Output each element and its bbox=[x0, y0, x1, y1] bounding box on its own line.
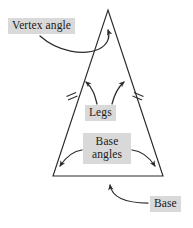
label-base-angles: Baseangles bbox=[83, 133, 131, 164]
label-base: Base bbox=[150, 196, 181, 212]
base-angle-right-arrow bbox=[132, 150, 155, 166]
base-angle-left-arrow bbox=[60, 150, 82, 166]
legs-right-arrow bbox=[112, 82, 124, 104]
legs-left-arrow bbox=[86, 82, 97, 104]
left-leg-tick-icon bbox=[67, 93, 78, 101]
right-leg-tick-icon bbox=[133, 93, 144, 101]
label-base-angles-line2: angles bbox=[92, 148, 122, 160]
label-vertex-angle: Vertex angle bbox=[8, 18, 75, 34]
label-base-angles-line1: Base bbox=[96, 135, 119, 147]
base-arrow bbox=[110, 185, 148, 203]
label-legs: Legs bbox=[85, 105, 116, 121]
isosceles-triangle-figure: Vertex angle Legs Baseangles Base bbox=[0, 0, 193, 228]
